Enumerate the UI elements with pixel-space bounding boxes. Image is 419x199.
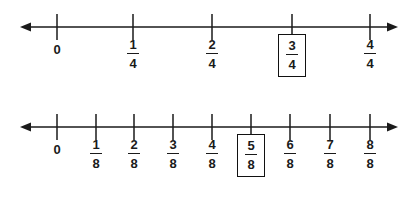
fraction-denominator: 8 — [206, 156, 218, 170]
left-arrow-icon — [20, 122, 31, 131]
fraction-numerator: 4 — [206, 138, 218, 152]
fraction-denominator: 4 — [206, 56, 218, 70]
whole-number-label: 0 — [53, 42, 60, 57]
fraction-bar — [286, 54, 298, 55]
fraction-numerator: 1 — [127, 38, 139, 52]
fraction-denominator: 8 — [128, 156, 140, 170]
fraction-numerator: 6 — [284, 138, 296, 152]
fraction: 24 — [206, 38, 218, 70]
right-arrow-icon — [387, 122, 398, 131]
fraction-bar — [245, 154, 257, 155]
fraction-denominator: 8 — [90, 156, 102, 170]
fraction-numerator: 5 — [245, 139, 257, 153]
fraction-bar — [127, 53, 139, 54]
tick-label: 24 — [206, 38, 218, 71]
fraction-denominator: 4 — [364, 56, 376, 70]
whole-number-label: 0 — [53, 142, 60, 157]
fraction: 38 — [167, 138, 179, 170]
fraction-denominator: 8 — [364, 156, 376, 170]
boxed-fraction: 58 — [237, 134, 265, 177]
fraction-numerator: 4 — [364, 38, 376, 52]
fraction: 48 — [206, 138, 218, 170]
tick-label: 48 — [206, 138, 218, 171]
tick-label: 68 — [284, 138, 296, 171]
fraction-denominator: 8 — [167, 156, 179, 170]
tick-label: 0 — [53, 41, 60, 57]
right-arrow-icon — [387, 22, 398, 31]
fraction-numerator: 2 — [206, 38, 218, 52]
tick-label: 18 — [90, 138, 102, 171]
fraction-denominator: 8 — [324, 156, 336, 170]
fraction-numerator: 1 — [90, 138, 102, 152]
fraction-numerator: 3 — [167, 138, 179, 152]
fraction-bar — [364, 53, 376, 54]
fraction-bar — [206, 53, 218, 54]
eighths-number-line: 01828384858687888 — [0, 100, 419, 199]
fraction-bar — [284, 153, 296, 154]
fraction-numerator: 8 — [364, 138, 376, 152]
tick-label: 88 — [364, 138, 376, 171]
tick-label: 78 — [324, 138, 336, 171]
fraction-numerator: 3 — [286, 39, 298, 53]
fraction: 28 — [128, 138, 140, 170]
fraction: 88 — [364, 138, 376, 170]
fraction-bar — [128, 153, 140, 154]
fraction-denominator: 4 — [286, 57, 298, 71]
fraction-bar — [90, 153, 102, 154]
fraction: 14 — [127, 38, 139, 70]
fraction-denominator: 8 — [245, 157, 257, 171]
left-arrow-icon — [20, 22, 31, 31]
fraction-bar — [206, 153, 218, 154]
fourths-number-line: 014243444 — [0, 0, 419, 100]
fraction-denominator: 8 — [284, 156, 296, 170]
highlighted-tick-label: 34 — [278, 34, 306, 77]
fraction-bar — [324, 153, 336, 154]
fraction: 78 — [324, 138, 336, 170]
fraction: 44 — [364, 38, 376, 70]
highlighted-tick-label: 58 — [237, 134, 265, 177]
tick-label: 28 — [128, 138, 140, 171]
fraction: 18 — [90, 138, 102, 170]
boxed-fraction: 34 — [278, 34, 306, 77]
fraction: 68 — [284, 138, 296, 170]
tick-label: 14 — [127, 38, 139, 71]
fraction-number-line-figure: 014243444 01828384858687888 — [0, 0, 419, 199]
fraction-numerator: 7 — [324, 138, 336, 152]
fraction-denominator: 4 — [127, 56, 139, 70]
fraction-bar — [167, 153, 179, 154]
tick-label: 38 — [167, 138, 179, 171]
fraction-bar — [364, 153, 376, 154]
fraction-numerator: 2 — [128, 138, 140, 152]
tick-label: 0 — [53, 141, 60, 157]
tick-label: 44 — [364, 38, 376, 71]
